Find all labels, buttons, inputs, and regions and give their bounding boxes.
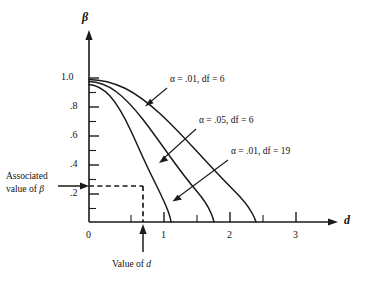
beta-callout-line2: value of β — [6, 184, 44, 195]
beta-callout-prefix: value of — [6, 184, 39, 194]
y-axis-minor-ticks — [89, 93, 96, 209]
y-tick-label-1.0: 1.0 — [61, 71, 74, 83]
curve-label-alpha-05-df-6: α = .05, df = 6 — [199, 115, 253, 126]
d-callout-arrow — [139, 224, 146, 252]
x-tick-label-2: 2 — [227, 229, 232, 241]
x-axis-minor-ticks — [131, 215, 263, 222]
y-axis-title: β — [82, 11, 88, 25]
y-tick-label-0.2: .2 — [70, 187, 78, 199]
beta-vs-d-plot — [0, 0, 374, 284]
d-callout: Value of d — [112, 259, 151, 270]
x-tick-label-1: 1 — [161, 229, 166, 241]
y-tick-label-0.6: .6 — [70, 129, 78, 141]
leader-arrow-alpha-05-df-6 — [159, 129, 196, 163]
power-curve-figure: β d 1.0 .8 .6 .4 .2 0 1 2 3 α = .01, df … — [0, 0, 374, 284]
x-axis-title: d — [344, 214, 350, 228]
y-tick-label-0: 0 — [86, 229, 91, 241]
d-callout-prefix: Value of — [112, 259, 146, 269]
y-tick-label-0.8: .8 — [70, 100, 78, 112]
x-tick-label-3: 3 — [293, 229, 298, 241]
y-axis-major-ticks — [89, 78, 99, 194]
x-axis-major-ticks — [164, 212, 296, 222]
y-tick-label-0.4: .4 — [70, 158, 78, 170]
leader-arrow-alpha-01-df-6 — [145, 88, 167, 107]
y-axis — [85, 30, 92, 222]
curve-label-alpha-01-df-19: α = .01, df = 19 — [231, 146, 290, 157]
beta-symbol: β — [39, 184, 44, 194]
beta-callout-line1: Associated — [6, 171, 48, 182]
curve-label-alpha-01-df-6: α = .01, df = 6 — [170, 74, 224, 85]
d-symbol: d — [146, 259, 151, 269]
